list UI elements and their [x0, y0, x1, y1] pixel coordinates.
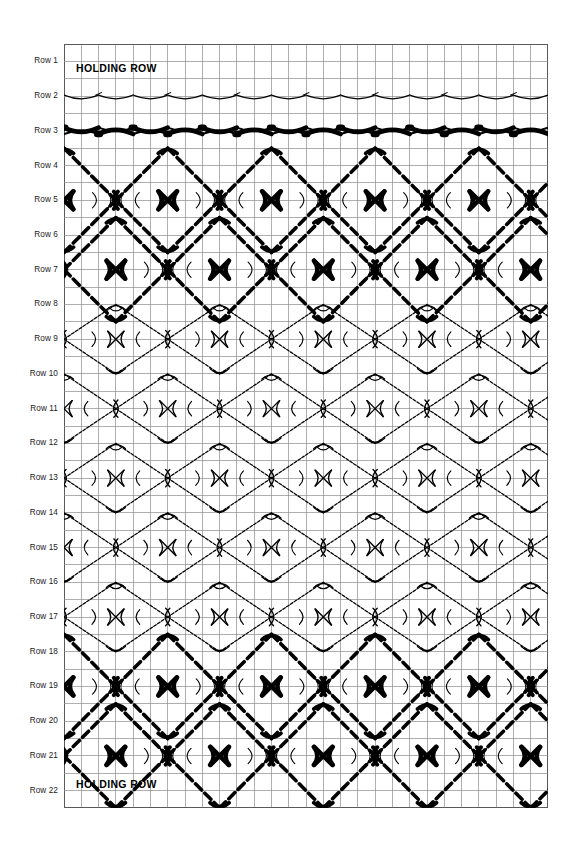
row-label-7: Row 7	[10, 265, 58, 275]
row-label-8: Row 8	[10, 299, 58, 309]
row-label-17: Row 17	[10, 612, 58, 622]
row-label-13: Row 13	[10, 473, 58, 483]
row-label-11: Row 11	[10, 404, 58, 414]
stitch-chart: Row 1Row 2Row 3Row 4Row 5Row 6Row 7Row 8…	[0, 0, 585, 848]
row-label-5: Row 5	[10, 195, 58, 205]
row-label-4: Row 4	[10, 161, 58, 171]
holding-row-bottom-label: HOLDING ROW	[76, 778, 157, 790]
row-label-15: Row 15	[10, 543, 58, 553]
holding-row-top-label: HOLDING ROW	[76, 62, 157, 74]
row-label-19: Row 19	[10, 681, 58, 691]
row-label-18: Row 18	[10, 647, 58, 657]
row-label-12: Row 12	[10, 438, 58, 448]
row-label-22: Row 22	[10, 786, 58, 796]
row-label-3: Row 3	[10, 126, 58, 136]
stitch-symbol-layer	[64, 44, 548, 808]
chart-grid[interactable]	[64, 44, 548, 808]
row-label-9: Row 9	[10, 334, 58, 344]
row-label-6: Row 6	[10, 230, 58, 240]
row-label-20: Row 20	[10, 716, 58, 726]
row-label-1: Row 1	[10, 56, 58, 66]
row-label-10: Row 10	[10, 369, 58, 379]
row-label-2: Row 2	[10, 91, 58, 101]
row-label-16: Row 16	[10, 577, 58, 587]
row-label-14: Row 14	[10, 508, 58, 518]
row-label-21: Row 21	[10, 751, 58, 761]
